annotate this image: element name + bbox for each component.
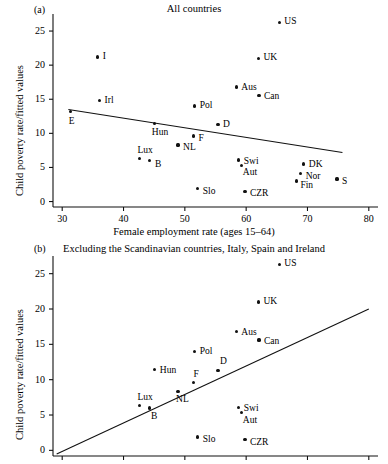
data-point-label: Aus	[241, 328, 256, 338]
y-tick-label: 10	[23, 127, 45, 138]
x-tick-label: 80	[354, 213, 384, 224]
panel-a-plot-area	[0, 0, 388, 240]
data-point	[176, 143, 179, 146]
y-tick-label: 20	[23, 303, 45, 314]
panel-b: (b) Excluding the Scandinavian countries…	[0, 240, 388, 464]
data-point-label: F	[198, 134, 203, 144]
data-point-label: Pol	[200, 101, 213, 111]
data-point-label: Irl	[105, 96, 114, 106]
data-point-label: Swi	[244, 404, 259, 414]
panel-a: (a) All countries Child poverty rate/fit…	[0, 0, 388, 240]
data-point-label: NL	[176, 395, 189, 405]
data-point-label: Can	[264, 337, 279, 347]
data-point-label: B	[155, 160, 161, 170]
data-point-label: D	[220, 357, 227, 367]
data-point-label: Fin	[300, 181, 313, 191]
data-point-label: US	[284, 259, 296, 269]
data-point-label: Aut	[243, 168, 257, 178]
data-point	[237, 158, 240, 161]
data-point-label: US	[284, 17, 296, 27]
data-point	[235, 85, 238, 88]
y-tick-label: 5	[23, 161, 45, 172]
x-tick-label: 60	[231, 213, 261, 224]
data-point-label: Hun	[160, 366, 176, 376]
data-point-label: Slo	[203, 187, 216, 197]
data-point-label: Hun	[152, 128, 168, 138]
data-point	[192, 381, 195, 384]
data-point	[257, 300, 260, 303]
x-tick-label: 70	[292, 213, 322, 224]
data-point-label: Can	[264, 92, 279, 102]
data-point	[335, 177, 338, 180]
data-point-label: UK	[263, 53, 277, 63]
data-point	[278, 21, 281, 24]
data-point-label: S	[342, 177, 347, 187]
y-tick-label: 0	[23, 444, 45, 455]
y-tick-label: 5	[23, 409, 45, 420]
data-point	[193, 104, 196, 107]
x-tick-label: 30	[47, 213, 77, 224]
y-tick-label: 0	[23, 196, 45, 207]
y-tick-label: 25	[23, 25, 45, 36]
figure-scatter-child-poverty: (a) All countries Child poverty rate/fit…	[0, 0, 388, 464]
data-point	[216, 369, 219, 372]
data-point	[257, 94, 260, 97]
data-point-label: Slo	[203, 435, 216, 445]
data-point	[243, 190, 246, 193]
x-tick-label: 40	[109, 213, 139, 224]
data-point-label: Nor	[306, 172, 321, 182]
data-point-label: DK	[309, 160, 323, 170]
data-point	[216, 123, 219, 126]
data-point-label: Swi	[244, 157, 259, 167]
data-point-label: I	[103, 52, 106, 62]
data-point-label: CZR	[250, 189, 268, 199]
data-point-label: B	[151, 412, 157, 422]
data-point-label: Lux	[137, 393, 152, 403]
data-point	[176, 390, 179, 393]
data-point-label: Aus	[241, 83, 256, 93]
data-point-label: NL	[183, 143, 196, 153]
data-point	[96, 55, 99, 58]
data-point-label: CZR	[250, 438, 268, 448]
data-point	[257, 338, 260, 341]
data-point	[243, 438, 246, 441]
data-point-label: Pol	[200, 347, 213, 357]
data-point	[196, 435, 199, 438]
y-tick-label: 15	[23, 93, 45, 104]
data-point	[257, 57, 260, 60]
data-point-label: Lux	[137, 146, 152, 156]
data-point-label: D	[223, 120, 230, 130]
y-tick-label: 25	[23, 268, 45, 279]
x-tick-label: 50	[170, 213, 200, 224]
data-point	[278, 263, 281, 266]
data-point	[295, 179, 298, 182]
data-point	[192, 134, 195, 137]
data-point-label: Aut	[243, 416, 257, 426]
y-tick-label: 20	[23, 59, 45, 70]
data-point-label: UK	[263, 297, 277, 307]
data-point-label: E	[69, 117, 75, 127]
y-tick-label: 10	[23, 374, 45, 385]
data-point-label: F	[193, 370, 198, 380]
y-tick-label: 15	[23, 338, 45, 349]
